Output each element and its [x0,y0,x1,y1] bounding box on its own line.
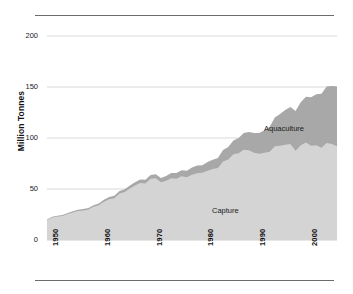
y-tick-label-50: 50 [12,185,38,193]
area-series-capture [47,143,337,240]
series-label-capture: Capture [212,206,239,215]
x-tick-label-1980: 1980 [206,229,215,247]
chart-figure: Million Tonnes 050100150200 195019601970… [0,0,353,294]
y-tick-label-0: 0 [12,236,38,244]
x-tick-label-1950: 1950 [51,229,60,247]
series-label-aquaculture: Aquaculture [264,124,304,133]
x-tick-label-2000: 2000 [310,229,319,247]
y-tick-label-200: 200 [12,32,38,40]
x-tick-label-1960: 1960 [103,229,112,247]
area-series-group [47,86,337,240]
y-tick-label-150: 150 [12,83,38,91]
area-chart-plot [0,0,353,294]
x-tick-label-1970: 1970 [155,229,164,247]
x-tick-label-1990: 1990 [258,229,267,247]
y-tick-label-100: 100 [12,134,38,142]
